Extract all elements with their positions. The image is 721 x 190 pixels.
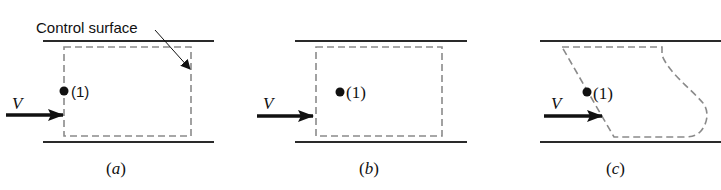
point-1 — [60, 87, 69, 96]
control-surface-label: Control surface — [36, 19, 138, 36]
velocity-label: V — [12, 94, 25, 113]
point-1 — [583, 88, 592, 97]
caption: (a) — [106, 159, 126, 178]
callout-arrow — [155, 30, 190, 69]
control-volume-diagram: Control surface (1) V (a) (1) V (b) (1) … — [0, 0, 721, 190]
panel-c: (1) V (c) — [540, 41, 721, 178]
panel-b: (1) V (b) — [257, 41, 467, 178]
panel-a: Control surface (1) V (a) — [6, 19, 214, 178]
control-surface — [316, 47, 442, 136]
caption: (b) — [359, 159, 379, 178]
point-1 — [336, 88, 345, 97]
point-label: (1) — [71, 83, 89, 100]
point-label: (1) — [346, 83, 366, 102]
point-label: (1) — [593, 84, 613, 103]
velocity-label: V — [551, 94, 564, 113]
caption: (c) — [606, 159, 625, 178]
velocity-label: V — [263, 94, 276, 113]
